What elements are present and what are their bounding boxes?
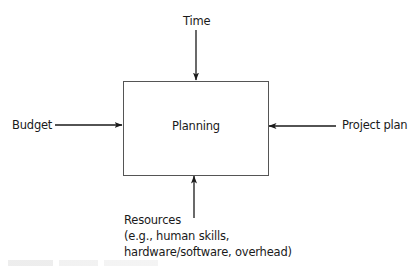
resources-label-line-2: (e.g., human skills, (124, 228, 229, 244)
project-plan-label: Project plan (342, 117, 407, 133)
planning-process-box: Planning (123, 81, 269, 176)
faint-caption-remnant (8, 260, 158, 266)
planning-diagram: Planning Time Budget Project plan Resour… (0, 0, 413, 270)
time-label: Time (183, 13, 210, 29)
budget-label: Budget (12, 117, 52, 133)
process-label: Planning (124, 118, 268, 134)
resources-label-line-3: hardware/software, overhead) (124, 244, 292, 260)
resources-label-line-1: Resources (124, 212, 181, 228)
